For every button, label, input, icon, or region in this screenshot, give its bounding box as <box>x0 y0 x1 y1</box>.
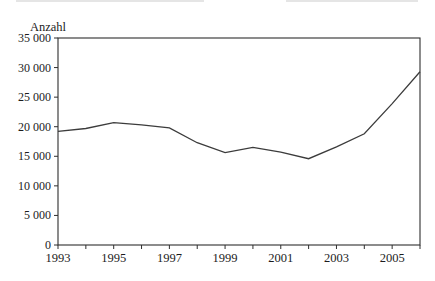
y-tick-label: 35 000 <box>18 31 51 45</box>
plot-border <box>58 38 420 245</box>
y-tick-label: 25 000 <box>18 90 51 104</box>
y-tick-label: 0 <box>45 238 51 252</box>
line-chart-figure: Anzahl 05 00010 00015 00020 00025 00030 … <box>0 0 435 281</box>
x-tick-label: 1993 <box>46 251 71 265</box>
x-tick-label: 1995 <box>101 251 126 265</box>
cropped-text-artifact <box>286 0 418 2</box>
y-tick-label: 5 000 <box>24 208 51 222</box>
y-axis: 05 00010 00015 00020 00025 00030 00035 0… <box>18 31 58 252</box>
x-tick-label: 1999 <box>213 251 238 265</box>
y-tick-label: 10 000 <box>18 179 51 193</box>
cropped-text-artifact <box>16 0 204 2</box>
y-tick-label: 30 000 <box>18 61 51 75</box>
data-line <box>58 72 420 159</box>
x-tick-label: 2003 <box>324 251 349 265</box>
x-tick-label: 2001 <box>268 251 293 265</box>
x-tick-label: 1997 <box>157 251 182 265</box>
x-axis: 1993199519971999200120032005 <box>46 245 421 265</box>
chart-svg: Anzahl 05 00010 00015 00020 00025 00030 … <box>0 0 435 281</box>
y-tick-label: 20 000 <box>18 120 51 134</box>
x-tick-label: 2005 <box>380 251 405 265</box>
y-tick-label: 15 000 <box>18 149 51 163</box>
